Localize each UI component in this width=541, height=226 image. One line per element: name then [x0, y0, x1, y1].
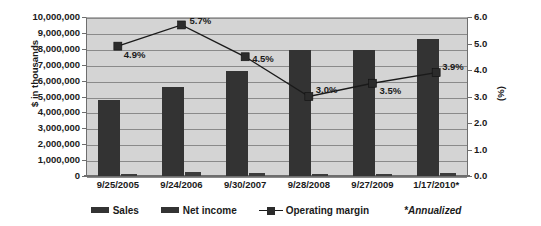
chart-container: 01,000,0002,000,0003,000,0004,000,0005,0…	[0, 0, 541, 226]
gridline	[87, 98, 467, 99]
y-axis-left-tick-mark	[82, 128, 86, 129]
bar-swatch-icon	[91, 207, 109, 213]
chart-legend: Sales Net income Operating margin *Annua…	[0, 199, 541, 221]
legend-item-sales[interactable]: Sales	[91, 205, 139, 216]
y-axis-left-tick-mark	[82, 65, 86, 66]
legend-label-operating-margin: Operating margin	[286, 205, 369, 216]
bar-sales	[353, 50, 375, 176]
y-axis-right-tick-mark	[468, 44, 472, 45]
legend-item-net-income[interactable]: Net income	[161, 205, 237, 216]
gridline	[87, 145, 467, 146]
y-axis-left-tick-mark	[82, 97, 86, 98]
gridline	[87, 34, 467, 35]
y-axis-left-tick-mark	[82, 160, 86, 161]
y-axis-left-tick-label: 4,000,000	[2, 107, 80, 117]
data-label-operating-margin: 4.9%	[124, 50, 146, 60]
y-axis-right-tick-mark	[468, 17, 472, 18]
bar-swatch-icon	[161, 207, 179, 213]
bar-net-income	[376, 174, 392, 176]
y-axis-left-tick-mark	[82, 112, 86, 113]
legend-label-sales: Sales	[113, 205, 139, 216]
gridline	[87, 161, 467, 162]
bar-sales	[417, 39, 439, 176]
y-axis-left-tick-label: 2,000,000	[2, 139, 80, 149]
line-marker-swatch-icon	[259, 206, 283, 215]
y-axis-left-tick-label: 6,000,000	[2, 76, 80, 86]
bar-net-income	[185, 172, 201, 176]
y-axis-right-tick-label: 6.0	[474, 12, 514, 22]
data-label-operating-margin: 3.9%	[442, 62, 464, 72]
x-axis-tick-label: 1/17/2010*	[404, 179, 468, 190]
bar-sales	[162, 87, 184, 176]
data-label-operating-margin: 3.0%	[316, 85, 338, 95]
y-axis-left-tick-label: 7,000,000	[2, 60, 80, 70]
y-axis-left-tick-mark	[82, 17, 86, 18]
y-axis-right-tick-mark	[468, 150, 472, 151]
gridline	[87, 129, 467, 130]
legend-item-operating-margin[interactable]: Operating margin	[259, 205, 369, 216]
x-axis-tick-label: 9/24/2006	[150, 179, 214, 190]
y-axis-left-title: $ in thousands	[29, 14, 40, 134]
y-axis-right-title: (%)	[495, 64, 506, 124]
x-axis-tick-label: 9/27/2009	[341, 179, 405, 190]
gridline	[87, 177, 467, 178]
data-label-operating-margin: 5.7%	[190, 16, 212, 26]
x-axis-tick-label: 9/28/2008	[277, 179, 341, 190]
y-axis-right-tick-mark	[468, 176, 472, 177]
plot-area	[86, 17, 468, 176]
gridline	[87, 82, 467, 83]
y-axis-right-tick-mark	[468, 70, 472, 71]
legend-label-net-income: Net income	[183, 205, 237, 216]
y-axis-left-tick-mark	[82, 176, 86, 177]
data-label-operating-margin: 4.5%	[252, 54, 274, 64]
annualized-note: *Annualized	[404, 205, 461, 216]
y-axis-left-tick-mark	[82, 144, 86, 145]
y-axis-right-tick-mark	[468, 123, 472, 124]
y-axis-left-tick-mark	[82, 33, 86, 34]
y-axis-right-tick-mark	[468, 97, 472, 98]
data-label-operating-margin: 3.5%	[380, 86, 402, 96]
x-axis-baseline	[84, 175, 470, 177]
y-axis-right-tick-label: 5.0	[474, 39, 514, 49]
bar-sales	[226, 71, 248, 176]
y-axis-left-tick-label: 5,000,000	[2, 92, 80, 102]
y-axis-left-tick-label: 9,000,000	[2, 28, 80, 38]
bar-net-income	[249, 173, 265, 176]
y-axis-left-tick-label: 10,000,000	[2, 12, 80, 22]
y-axis-right-tick-label: 1.0	[474, 145, 514, 155]
y-axis-left-tick-mark	[82, 81, 86, 82]
y-axis-left-tick-label: 3,000,000	[2, 123, 80, 133]
y-axis-left-tick-label: 1,000,000	[2, 155, 80, 165]
x-axis-tick-label: 9/30/2007	[213, 179, 277, 190]
gridline	[87, 66, 467, 67]
bar-net-income	[121, 174, 137, 176]
bar-sales	[98, 100, 120, 176]
y-axis-right-tick-label: 0.0	[474, 171, 514, 181]
y-axis-left-tick-mark	[82, 49, 86, 50]
y-axis-left-tick-label: 0	[2, 171, 80, 181]
x-axis-tick-label: 9/25/2005	[86, 179, 150, 190]
bar-net-income	[312, 174, 328, 176]
bar-sales	[289, 50, 311, 176]
gridline	[87, 18, 467, 19]
bar-net-income	[440, 173, 456, 176]
gridline	[87, 113, 467, 114]
y-axis-left-tick-label: 8,000,000	[2, 44, 80, 54]
